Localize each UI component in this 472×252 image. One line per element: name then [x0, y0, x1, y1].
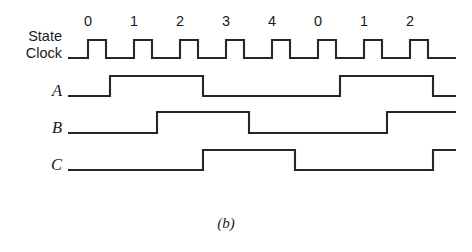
row-labels: State Clock A B C [26, 28, 63, 174]
state-label-6: 1 [360, 13, 368, 29]
waveform-signal-a [68, 76, 456, 96]
figure-caption: (b) [217, 215, 235, 232]
waveform-signal-b [68, 112, 456, 133]
waveform-signal-c [68, 150, 456, 170]
state-label-7: 2 [406, 13, 414, 29]
signal-a-label: A [51, 81, 63, 100]
waveform-state-clock [68, 40, 456, 58]
state-label-4: 4 [268, 13, 276, 29]
state-clock-label-line2: Clock [26, 45, 63, 61]
state-clock-label-line1: State [28, 28, 62, 44]
state-label-0: 0 [84, 13, 92, 29]
signal-b-label: B [52, 118, 62, 137]
state-number-labels: 0 1 2 3 4 0 1 2 [84, 13, 414, 29]
signal-c-label: C [51, 155, 63, 174]
state-label-5: 0 [314, 13, 322, 29]
timing-diagram-figure: 0 1 2 3 4 0 1 2 State Clock A B C (b) [0, 0, 472, 252]
state-label-3: 3 [222, 13, 230, 29]
timing-diagram-svg: 0 1 2 3 4 0 1 2 State Clock A B C (b) [0, 0, 472, 252]
waveforms [68, 40, 456, 170]
state-label-1: 1 [130, 13, 138, 29]
state-label-2: 2 [176, 13, 184, 29]
